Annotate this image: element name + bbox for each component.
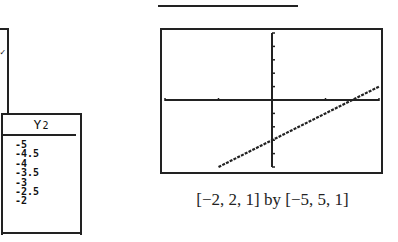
top-rule bbox=[158, 5, 298, 7]
table-header-y2: Y2 bbox=[3, 115, 80, 134]
graph-window bbox=[160, 28, 383, 174]
table-cell: -2 bbox=[15, 196, 39, 205]
header-divider bbox=[3, 134, 76, 136]
window-caption: [−2, 2, 1] by [−5, 5, 1] bbox=[160, 190, 385, 210]
check-mark-icon: ✓ bbox=[0, 48, 5, 57]
previous-screen-edge bbox=[0, 28, 9, 113]
graph-plot bbox=[162, 30, 381, 172]
header-subscript: 2 bbox=[42, 120, 49, 131]
y2-graph-line bbox=[219, 87, 380, 167]
value-table: Y2 -5 -4.5 -4 -3.5 -3 -2.5 -2 bbox=[1, 113, 82, 235]
table-values: -5 -4.5 -4 -3.5 -3 -2.5 -2 bbox=[15, 140, 39, 206]
table-bottom-rule bbox=[1, 232, 81, 234]
